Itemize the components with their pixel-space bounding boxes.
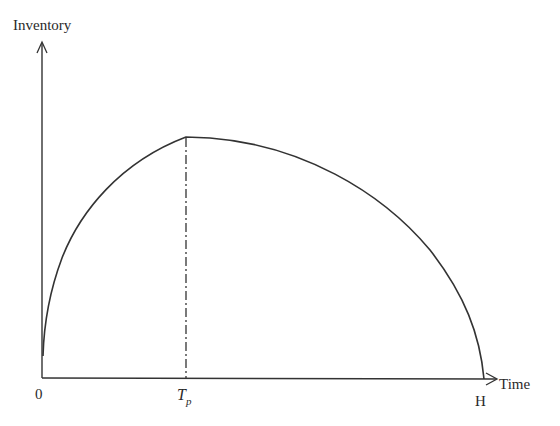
- origin-label: 0: [35, 386, 43, 402]
- x-axis: [42, 378, 496, 379]
- tp-label: Tp: [177, 386, 192, 407]
- h-label: H: [475, 393, 486, 409]
- inventory-curve: [43, 137, 484, 379]
- inventory-chart: Inventory Time 0 Tp H: [0, 0, 560, 426]
- x-axis-label: Time: [499, 376, 530, 392]
- y-axis-label: Inventory: [13, 17, 72, 33]
